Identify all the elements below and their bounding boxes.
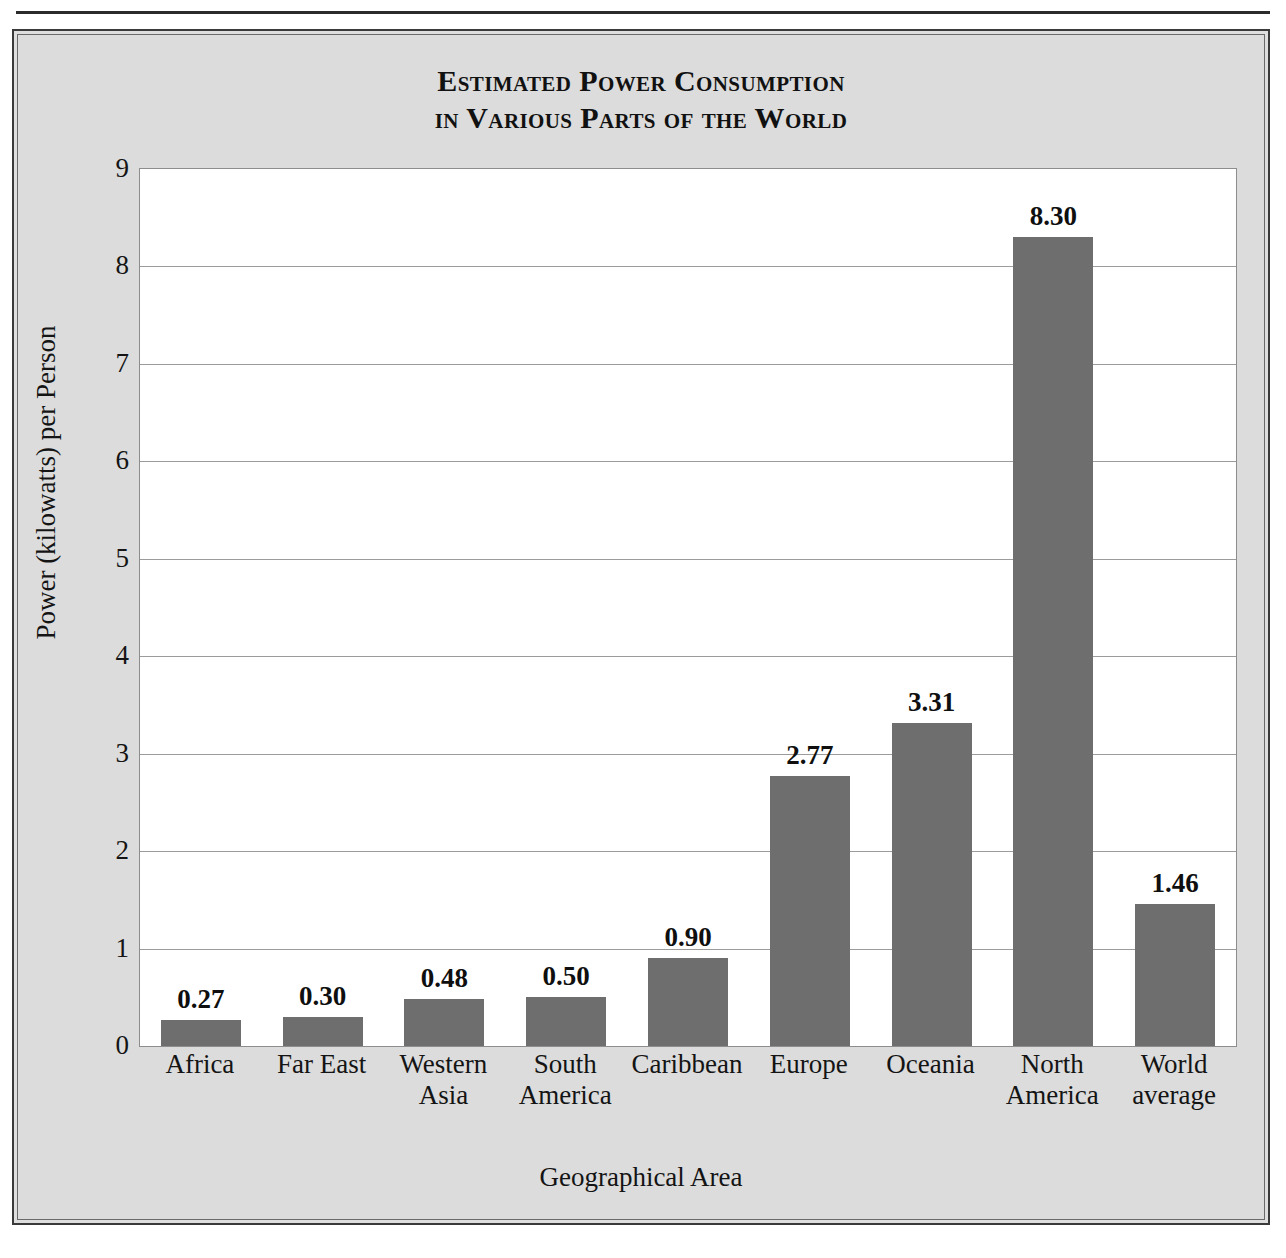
y-axis-tick-label: 4	[83, 640, 129, 671]
x-axis-tick-label-line: Europe	[748, 1049, 870, 1080]
top-horizontal-rule	[16, 11, 1270, 14]
plot-area: 0.270.300.480.500.902.773.318.301.46	[139, 168, 1237, 1047]
y-axis-tick-label: 6	[83, 445, 129, 476]
x-axis-tick-label: Far East	[261, 1049, 383, 1080]
x-axis-title: Geographical Area	[18, 1162, 1264, 1193]
bar	[283, 1017, 363, 1046]
bar	[404, 999, 484, 1046]
bar-value-label: 8.30	[983, 201, 1123, 232]
bar-value-label: 0.30	[253, 981, 393, 1012]
x-axis-tick-label-line: North	[991, 1049, 1113, 1080]
chart-title-line-2: in Various Parts of the World	[18, 100, 1264, 137]
x-axis-tick-label: Caribbean	[626, 1049, 748, 1080]
x-axis-tick-label-line: Asia	[383, 1080, 505, 1111]
figure-frame: Estimated Power Consumption in Various P…	[12, 29, 1270, 1225]
bar	[1135, 904, 1215, 1046]
y-axis-tick-label: 1	[83, 932, 129, 963]
x-axis-tick-label-line: Western	[383, 1049, 505, 1080]
x-axis-tick-label: Africa	[139, 1049, 261, 1080]
figure-inner-panel: Estimated Power Consumption in Various P…	[17, 34, 1265, 1220]
x-axis-tick-label-line: average	[1113, 1080, 1235, 1111]
x-axis-tick-label: SouthAmerica	[504, 1049, 626, 1112]
x-axis-tick-label-line: World	[1113, 1049, 1235, 1080]
bar-value-label: 0.27	[131, 984, 271, 1015]
y-axis-tick-label: 8	[83, 250, 129, 281]
y-axis-tick-label: 7	[83, 347, 129, 378]
x-axis-tick-label: Europe	[748, 1049, 870, 1080]
x-axis-tick-label-line: Caribbean	[626, 1049, 748, 1080]
bar-value-label: 0.50	[496, 961, 636, 992]
y-axis-title: Power (kilowatts) per Person	[31, 163, 62, 803]
x-axis-tick-labels: AfricaFar EastWesternAsiaSouthAmericaCar…	[139, 1049, 1237, 1159]
x-axis-tick-label-line: America	[504, 1080, 626, 1111]
x-axis-tick-label: Worldaverage	[1113, 1049, 1235, 1112]
chart-title-line-1: Estimated Power Consumption	[18, 63, 1264, 100]
bar	[770, 776, 850, 1046]
bar	[526, 997, 606, 1046]
x-axis-tick-label-line: Africa	[139, 1049, 261, 1080]
bar-value-label: 2.77	[740, 740, 880, 771]
bar	[161, 1020, 241, 1046]
bar-value-label: 0.48	[374, 963, 514, 994]
bar	[648, 958, 728, 1046]
chart-title: Estimated Power Consumption in Various P…	[18, 63, 1264, 137]
bar	[1013, 237, 1093, 1046]
bar	[892, 723, 972, 1046]
y-axis-tick-label: 5	[83, 542, 129, 573]
x-axis-tick-label-line: Far East	[261, 1049, 383, 1080]
y-axis-tick-labels: 0123456789	[73, 168, 129, 1045]
bar-value-label: 1.46	[1105, 868, 1245, 899]
y-axis-tick-label: 2	[83, 835, 129, 866]
y-axis-tick-label: 9	[83, 153, 129, 184]
x-axis-tick-label-line: Oceania	[870, 1049, 992, 1080]
x-axis-tick-label-line: America	[991, 1080, 1113, 1111]
x-axis-tick-label: Oceania	[870, 1049, 992, 1080]
x-axis-tick-label: NorthAmerica	[991, 1049, 1113, 1112]
x-axis-tick-label: WesternAsia	[383, 1049, 505, 1112]
y-axis-tick-label: 0	[83, 1030, 129, 1061]
bar-value-label: 0.90	[618, 922, 758, 953]
bar-value-label: 3.31	[862, 687, 1002, 718]
x-axis-tick-label-line: South	[504, 1049, 626, 1080]
y-axis-tick-label: 3	[83, 737, 129, 768]
